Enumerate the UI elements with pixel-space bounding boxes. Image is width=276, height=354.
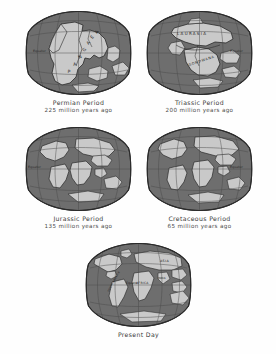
globe-cell-cretaceous: Equator Cretaceous Period 65 million yea… xyxy=(145,126,254,230)
landmass-label-laurasia: LAURASIA xyxy=(177,31,207,36)
landmass-label-africa: AFRICA xyxy=(136,281,149,285)
globe-svg-permian: Equator A E A G N A P xyxy=(24,10,133,96)
globe-svg-jurassic: Equator xyxy=(24,126,133,212)
age-label: 225 million years ago xyxy=(45,107,113,114)
period-label: Cretaceous Period xyxy=(168,215,232,223)
period-label: Triassic Period xyxy=(166,99,234,107)
equator-label: Equator xyxy=(28,165,41,169)
globe-cell-present: Equator ASIA AFRICA INDIA SOUTH AMERICA … xyxy=(84,242,193,339)
globe-cell-permian: Equator A E A G N A P Permian Period 225… xyxy=(24,10,133,114)
caption-present: Present Day xyxy=(118,328,159,339)
globe-cell-jurassic: Equator Jurassic Period 135 million year… xyxy=(24,126,133,230)
landmass-label-asia: ASIA xyxy=(160,259,169,263)
globe-svg-cretaceous: Equator xyxy=(145,126,254,212)
globe-jurassic: Equator xyxy=(24,126,133,212)
caption-triassic: Triassic Period 200 million years ago xyxy=(166,96,234,114)
age-label: 65 million years ago xyxy=(168,223,232,230)
period-label: Present Day xyxy=(118,331,159,339)
globe-cell-triassic: Equator LAURASIA GONDWANA Triassic Perio… xyxy=(145,10,254,114)
globe-svg-triassic: Equator LAURASIA GONDWANA xyxy=(145,10,254,96)
globe-svg-present: Equator ASIA AFRICA INDIA SOUTH AMERICA xyxy=(84,242,193,328)
continental-drift-figure: Equator A E A G N A P Permian Period 225… xyxy=(0,0,276,354)
equator-label: Equator xyxy=(230,49,243,53)
globe-triassic: Equator LAURASIA GONDWANA xyxy=(145,10,254,96)
equator-label: Equator xyxy=(230,165,243,169)
globe-cretaceous: Equator xyxy=(145,126,254,212)
caption-jurassic: Jurassic Period 135 million years ago xyxy=(45,212,113,230)
globe-permian: Equator A E A G N A P xyxy=(24,10,133,96)
period-label: Permian Period xyxy=(45,99,113,107)
period-label: Jurassic Period xyxy=(45,215,113,223)
globe-present: Equator ASIA AFRICA INDIA SOUTH AMERICA xyxy=(84,242,193,328)
caption-permian: Permian Period 225 million years ago xyxy=(45,96,113,114)
landmass-label-india: INDIA xyxy=(158,276,166,280)
age-label: 135 million years ago xyxy=(45,223,113,230)
caption-cretaceous: Cretaceous Period 65 million years ago xyxy=(168,212,232,230)
equator-label: Equator xyxy=(33,49,46,53)
age-label: 200 million years ago xyxy=(166,107,234,114)
